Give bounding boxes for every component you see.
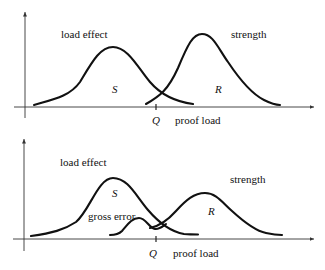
proof-load-label: proof load	[173, 247, 219, 259]
R-label: R	[214, 83, 222, 95]
panel-bottom: load effect strength S R gross error Q p…	[13, 139, 314, 259]
Q-label: Q	[152, 114, 160, 126]
load-effect-label: load effect	[60, 156, 107, 168]
gross-error-label: gross error	[88, 210, 136, 222]
Q-label: Q	[149, 247, 157, 259]
strength-label: strength	[231, 28, 267, 40]
S-label: S	[112, 83, 118, 95]
panel-top: load effect strength S R Q proof load	[14, 12, 314, 126]
reliability-diagram: load effect strength S R Q proof load lo…	[0, 0, 325, 270]
S-label: S	[112, 187, 118, 199]
load-effect-curve-S	[34, 47, 193, 105]
proof-load-label: proof load	[175, 114, 221, 126]
load-effect-label: load effect	[61, 28, 108, 40]
strength-label: strength	[230, 173, 266, 185]
R-label: R	[207, 205, 215, 217]
